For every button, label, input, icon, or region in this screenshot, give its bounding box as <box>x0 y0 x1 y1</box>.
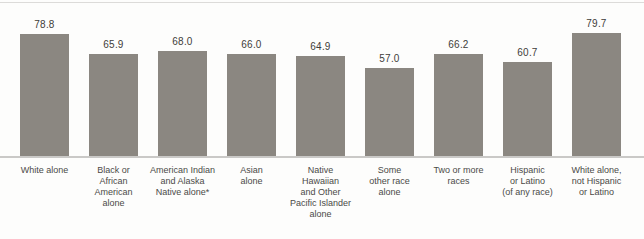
category-label: Some other race alone <box>355 165 424 198</box>
category-label: White alone <box>10 165 79 176</box>
category-label: Hispanic or Latino (of any race) <box>493 165 562 198</box>
bar <box>20 34 69 156</box>
bar-value-label: 68.0 <box>172 36 192 48</box>
category-label: Two or more races <box>424 165 493 187</box>
bar-column: 78.8 <box>10 19 79 156</box>
bar-column: 79.7 <box>562 18 631 156</box>
bar-value-label: 66.0 <box>241 39 261 51</box>
bar-value-label: 65.9 <box>103 39 123 51</box>
bar-value-label: 57.0 <box>379 53 399 65</box>
bar <box>503 62 552 156</box>
top-border-line <box>0 2 644 3</box>
bar <box>158 51 207 156</box>
bar-value-label: 79.7 <box>586 18 606 30</box>
bar-column: 66.0 <box>217 39 286 156</box>
bar-column: 57.0 <box>355 53 424 156</box>
bar <box>572 33 621 156</box>
bar-column: 64.9 <box>286 41 355 156</box>
bar-value-label: 64.9 <box>310 41 330 53</box>
bar-column: 65.9 <box>79 39 148 156</box>
bar <box>89 54 138 156</box>
bar-column: 66.2 <box>424 39 493 156</box>
bar-chart: 78.865.968.066.064.957.066.260.779.7 Whi… <box>0 0 644 239</box>
category-label: Black or African American alone <box>79 165 148 209</box>
bar-value-label: 78.8 <box>34 19 54 31</box>
plot-area: 78.865.968.066.064.957.066.260.779.7 <box>0 0 644 156</box>
x-axis-labels: White aloneBlack or African American alo… <box>0 158 644 220</box>
bar <box>434 54 483 156</box>
bar <box>227 54 276 156</box>
category-label: American Indian and Alaska Native alone* <box>148 165 217 198</box>
bar-value-label: 66.2 <box>448 39 468 51</box>
bar-value-label: 60.7 <box>517 47 537 59</box>
bar <box>365 68 414 156</box>
bar-column: 60.7 <box>493 47 562 156</box>
bar <box>296 56 345 156</box>
category-label: White alone, not Hispanic or Latino <box>562 165 631 198</box>
category-label: Asian alone <box>217 165 286 187</box>
bar-column: 68.0 <box>148 36 217 156</box>
category-label: Native Hawaiian and Other Pacific Island… <box>286 165 355 220</box>
